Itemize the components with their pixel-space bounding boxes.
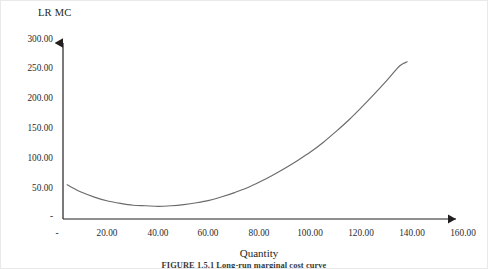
plot-area [1,1,488,269]
x-axis-title: Quantity [1,247,487,259]
figure-caption: FIGURE 1.5.1 Long-run marginal cost curv… [1,261,487,269]
figure-container: LR MC 300.00 250.00 200.00 150.00 100.00… [0,0,488,269]
x-axis-title-text: Quantity [210,247,279,259]
lr-mc-curve [67,62,407,207]
